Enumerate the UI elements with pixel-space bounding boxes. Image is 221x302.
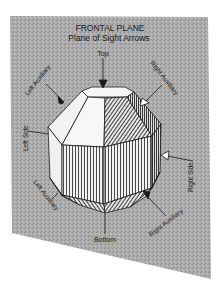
frontal-plane-diagram: FRONTAL PLANE Plane of Sight Arrows xyxy=(0,0,221,302)
plane-subtitle: Plane of Sight Arrows xyxy=(68,33,149,43)
label-right-side: Right Side xyxy=(187,162,195,192)
plane-title: FRONTAL PLANE xyxy=(76,23,145,33)
label-top: Top xyxy=(97,50,108,58)
top-face xyxy=(82,87,134,97)
front-face xyxy=(62,145,104,204)
label-left-side: Left Side xyxy=(22,125,29,151)
label-bottom: Bottom xyxy=(94,236,116,243)
